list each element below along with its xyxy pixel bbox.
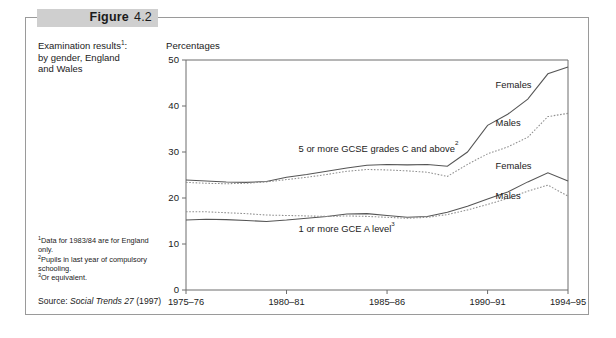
series-label-males: Males: [496, 190, 521, 201]
y-tick-label: 10: [168, 238, 179, 249]
y-tick-label: 30: [168, 146, 179, 157]
y-tick-label: 40: [168, 100, 179, 111]
chart-annotation: 1 or more GCE A level3: [299, 219, 396, 234]
y-tick-label: 50: [168, 54, 179, 65]
line-chart: 010203040501975–761980–811985–861990–911…: [0, 0, 616, 338]
series-label-males: Males: [496, 117, 521, 128]
x-tick-label: 1980–81: [268, 297, 304, 307]
x-tick-label: 1975–76: [168, 297, 204, 307]
chart-annotation: 5 or more GCSE grades C and above2: [299, 139, 459, 154]
x-tick-label: 1990–91: [469, 297, 505, 307]
series-label-females: Females: [496, 160, 532, 171]
series-label-females: Females: [496, 79, 532, 90]
x-tick-label: 1994–95: [550, 297, 586, 307]
x-tick-label: 1985–86: [369, 297, 405, 307]
y-tick-label: 20: [168, 192, 179, 203]
chart-svg: 010203040501975–761980–811985–861990–911…: [0, 0, 616, 338]
y-tick-label: 0: [174, 284, 179, 295]
